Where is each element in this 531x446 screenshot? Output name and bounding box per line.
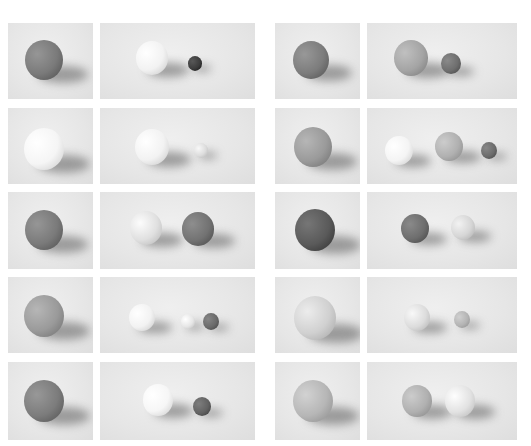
clay-ball [451, 215, 475, 240]
clay-ball [188, 56, 202, 71]
clay-ball [394, 40, 428, 76]
clay-ball [445, 385, 475, 417]
clay-ball [25, 210, 63, 250]
photo-panel [100, 108, 255, 184]
clay-ball [294, 296, 336, 340]
clay-ball [295, 209, 335, 251]
clay-ball [182, 212, 214, 246]
clay-ball [24, 128, 64, 170]
clay-ball [203, 313, 219, 330]
photo-panel [8, 23, 93, 99]
clay-ball [181, 314, 195, 329]
photo-panel [275, 108, 360, 184]
photo-panel [367, 108, 517, 184]
clay-ball [293, 41, 329, 79]
photo-panel [367, 23, 517, 99]
clay-ball [143, 384, 173, 416]
clay-ball [24, 295, 64, 337]
photo-panel [367, 277, 517, 353]
clay-ball [193, 397, 211, 416]
photo-panel [367, 192, 517, 269]
photo-panel [100, 277, 255, 353]
photo-panel [100, 192, 255, 269]
clay-ball [24, 380, 64, 422]
photo-panel [275, 277, 360, 353]
clay-ball [129, 304, 155, 331]
clay-ball [136, 41, 168, 75]
photo-panel [8, 362, 93, 440]
clay-ball [294, 127, 332, 167]
photo-panel [275, 192, 360, 269]
clay-ball [130, 211, 162, 245]
clay-ball [481, 142, 497, 159]
clay-ball [293, 380, 333, 422]
photo-panel [8, 277, 93, 353]
clay-ball [454, 311, 470, 328]
clay-ball [402, 385, 432, 417]
photo-panel [100, 23, 255, 99]
clay-ball [404, 304, 430, 331]
photo-panel [100, 362, 255, 440]
clay-ball [25, 40, 63, 80]
photo-panel [275, 362, 360, 440]
photo-panel [8, 192, 93, 269]
photo-panel [8, 108, 93, 184]
clay-ball [441, 53, 461, 74]
clay-ball [194, 143, 208, 158]
clay-ball [135, 129, 169, 165]
photo-panel [275, 23, 360, 99]
photo-panel [367, 362, 517, 440]
